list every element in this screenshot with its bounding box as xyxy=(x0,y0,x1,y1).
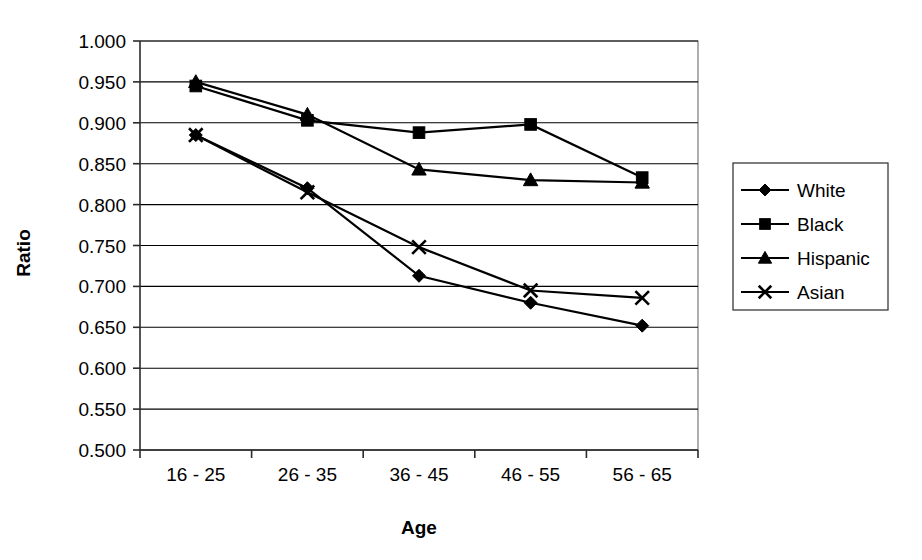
y-axis-ticks xyxy=(133,41,140,450)
x-axis-tick-label: 56 - 65 xyxy=(613,464,672,485)
x-axis xyxy=(140,450,698,458)
y-axis-tick-label: 0.950 xyxy=(78,72,126,93)
x-axis-ticks xyxy=(140,450,698,458)
y-axis-tick-label: 0.650 xyxy=(78,317,126,338)
x-axis-tick-label: 26 - 35 xyxy=(278,464,337,485)
y-axis xyxy=(133,41,140,450)
legend-item-label: White xyxy=(797,180,846,201)
data-point-square-marker xyxy=(760,219,771,230)
y-axis-tick-label: 0.850 xyxy=(78,154,126,175)
y-axis-tick-label: 0.800 xyxy=(78,195,126,216)
y-axis-tick-labels: 1.0000.9500.9000.8500.8000.7500.7000.650… xyxy=(78,31,126,461)
legend-item-label: Asian xyxy=(797,282,845,303)
line-chart: 1.0000.9500.9000.8500.8000.7500.7000.650… xyxy=(0,0,922,560)
x-axis-tick-label: 46 - 55 xyxy=(501,464,560,485)
y-axis-tick-label: 0.500 xyxy=(78,440,126,461)
legend-item-label: Hispanic xyxy=(797,248,870,269)
x-axis-tick-label: 16 - 25 xyxy=(166,464,225,485)
x-axis-title: Age xyxy=(401,517,437,538)
legend: WhiteBlackHispanicAsian xyxy=(733,163,888,310)
x-axis-tick-label: 36 - 45 xyxy=(389,464,448,485)
y-axis-tick-label: 0.550 xyxy=(78,399,126,420)
y-axis-tick-label: 1.000 xyxy=(78,31,126,52)
data-point-square-marker xyxy=(525,119,537,131)
y-axis-tick-label: 0.900 xyxy=(78,113,126,134)
y-axis-tick-label: 0.700 xyxy=(78,276,126,297)
y-axis-title: Ratio xyxy=(13,229,34,277)
chart-canvas: 1.0000.9500.9000.8500.8000.7500.7000.650… xyxy=(0,0,922,560)
data-point-square-marker xyxy=(413,127,425,139)
y-axis-tick-label: 0.750 xyxy=(78,236,126,257)
x-axis-tick-labels: 16 - 2526 - 3536 - 4546 - 5556 - 65 xyxy=(166,464,672,485)
legend-item-label: Black xyxy=(797,214,844,235)
y-axis-tick-label: 0.600 xyxy=(78,358,126,379)
